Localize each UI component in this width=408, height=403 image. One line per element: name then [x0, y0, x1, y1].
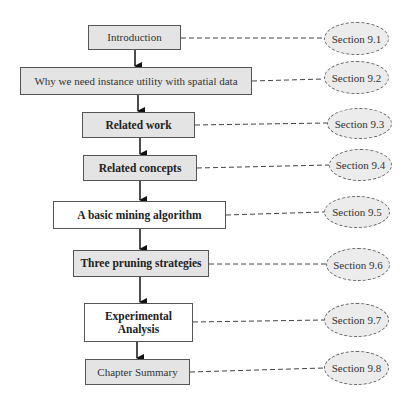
section-label: Section 9.1: [332, 33, 382, 45]
section-badge-9-8: Section 9.8: [324, 351, 389, 385]
step-label: Introduction: [107, 31, 161, 44]
step-label: Related work: [105, 119, 171, 132]
section-label: Section 9.5: [332, 206, 382, 218]
section-badge-9-7: Section 9.7: [324, 303, 389, 337]
step-label: Why we need instance utility with spatia…: [34, 75, 237, 88]
step-label: A basic mining algorithm: [77, 209, 201, 222]
section-label: Section 9.6: [333, 259, 383, 271]
step-chapter-summary: Chapter Summary: [85, 359, 190, 385]
section-label: Section 9.7: [332, 314, 382, 326]
section-badge-9-1: Section 9.1: [324, 22, 389, 55]
step-related-work: Related work: [82, 112, 195, 138]
section-label: Section 9.2: [332, 72, 382, 84]
step-related-concepts: Related concepts: [83, 155, 197, 181]
step-label: Three pruning strategies: [80, 257, 201, 270]
section-badge-9-6: Section 9.6: [326, 248, 390, 281]
step-label: Chapter Summary: [97, 366, 177, 379]
step-pruning-strategies: Three pruning strategies: [73, 250, 209, 277]
step-label: Related concepts: [99, 162, 182, 175]
section-badge-9-3: Section 9.3: [327, 108, 392, 139]
step-basic-mining-algorithm: A basic mining algorithm: [53, 201, 226, 229]
section-badge-9-4: Section 9.4: [329, 149, 392, 181]
section-label: Section 9.3: [335, 118, 385, 130]
section-label: Section 9.4: [336, 159, 386, 171]
step-experimental-analysis: Experimental Analysis: [84, 303, 193, 342]
step-introduction: Introduction: [88, 25, 181, 50]
step-why-instance-utility: Why we need instance utility with spatia…: [20, 67, 252, 95]
section-badge-9-5: Section 9.5: [324, 196, 390, 228]
chapter-flowchart: Introduction Why we need instance utilit…: [0, 0, 408, 403]
step-label-line-2: Analysis: [118, 323, 160, 336]
section-badge-9-2: Section 9.2: [324, 61, 389, 94]
section-label: Section 9.8: [332, 362, 382, 374]
step-label-line-1: Experimental: [105, 310, 172, 323]
